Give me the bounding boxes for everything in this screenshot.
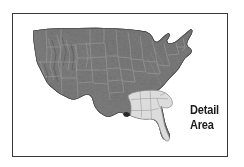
- map-stage: Detail Area: [0, 0, 244, 167]
- detail-area-label-line-1: Detail: [190, 103, 225, 118]
- locator-map-figure: Detail Area: [0, 0, 244, 167]
- us-relief-map: [0, 0, 244, 167]
- detail-area-label-line-2: Area: [190, 118, 225, 133]
- detail-area-label: Detail Area: [190, 103, 225, 133]
